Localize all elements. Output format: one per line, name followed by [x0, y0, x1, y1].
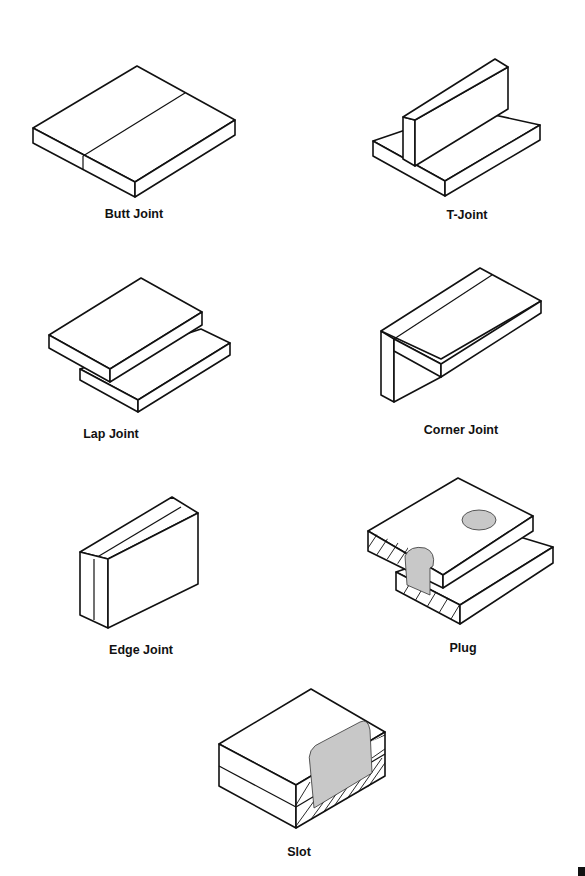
- page-mark: [578, 867, 585, 876]
- slot-weld-drawing: [0, 0, 585, 876]
- slot-weld-label: Slot: [287, 845, 311, 859]
